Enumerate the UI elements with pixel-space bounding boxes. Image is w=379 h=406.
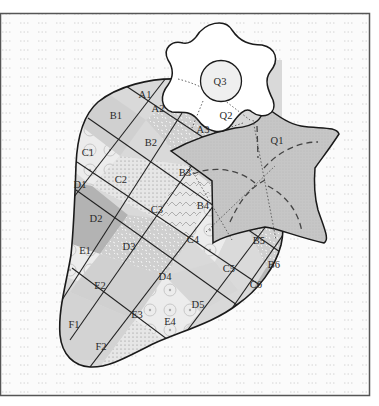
label-C3: C3 xyxy=(151,204,163,215)
label-A2: A2 xyxy=(152,103,165,114)
label-E1: E1 xyxy=(79,245,91,256)
label-B2: B2 xyxy=(145,137,157,148)
label-Q1: Q1 xyxy=(271,135,284,146)
label-E2: E2 xyxy=(94,280,106,291)
label-A3: A3 xyxy=(197,124,210,135)
label-E4: E4 xyxy=(164,316,176,327)
label-D5: D5 xyxy=(192,299,205,310)
label-D2: D2 xyxy=(90,213,103,224)
label-F2: F2 xyxy=(95,341,106,352)
label-D3: D3 xyxy=(123,241,136,252)
label-C6: C6 xyxy=(250,279,262,290)
label-B3: B3 xyxy=(179,167,191,178)
label-F1: F1 xyxy=(68,319,79,330)
label-C2: C2 xyxy=(115,174,127,185)
label-E3: E3 xyxy=(131,309,143,320)
label-A1: A1 xyxy=(139,89,152,100)
label-B6: B6 xyxy=(268,259,280,270)
label-Q2: Q2 xyxy=(220,110,233,121)
label-D1: D1 xyxy=(74,179,87,190)
label-C4: C4 xyxy=(187,234,200,245)
label-C1: C1 xyxy=(82,147,94,158)
label-B1: B1 xyxy=(110,110,122,121)
label-B5: B5 xyxy=(253,235,265,246)
label-D4: D4 xyxy=(159,271,173,282)
label-C5: C5 xyxy=(223,263,235,274)
label-B4: B4 xyxy=(197,200,210,211)
quilt-diagram: A1 A2 A3 B1 B2 B3 B4 B5 B6 C1 C2 C3 C4 C… xyxy=(0,0,379,406)
label-Q3: Q3 xyxy=(214,76,227,87)
